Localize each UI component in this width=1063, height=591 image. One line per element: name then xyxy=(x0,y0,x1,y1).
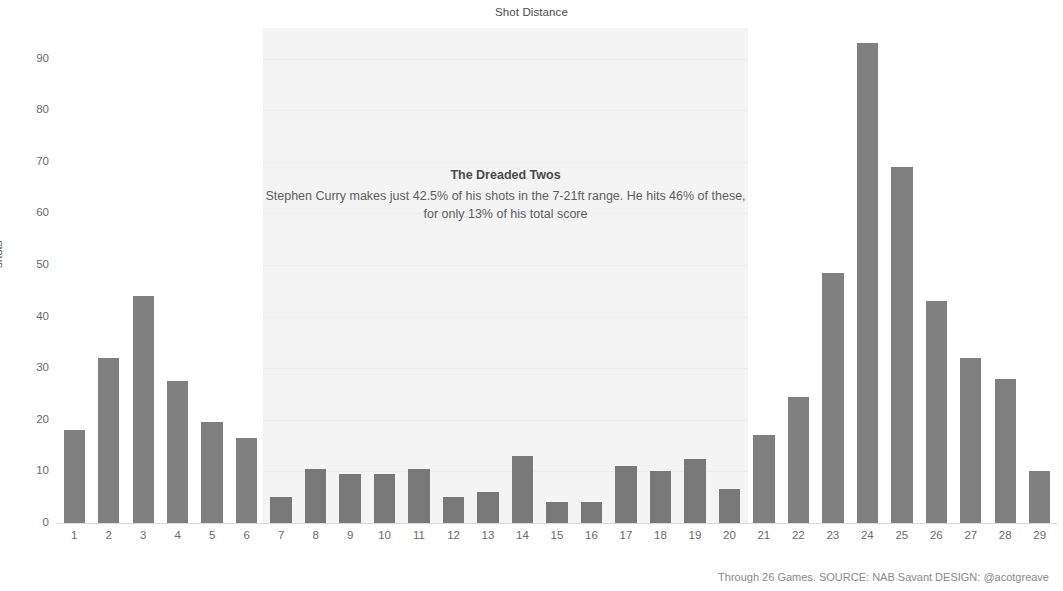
bar-15[interactable] xyxy=(546,502,567,523)
bar-1[interactable] xyxy=(64,430,85,523)
bar-slot xyxy=(719,28,740,523)
bar-slot xyxy=(753,28,774,523)
bar-slot xyxy=(1029,28,1050,523)
bars-layer xyxy=(57,28,1057,523)
x-tick-15: 15 xyxy=(540,530,574,542)
bar-slot xyxy=(857,28,878,523)
bar-5[interactable] xyxy=(201,422,222,523)
bar-slot xyxy=(995,28,1016,523)
x-tick-19: 19 xyxy=(678,530,712,542)
bar-slot xyxy=(443,28,464,523)
bar-23[interactable] xyxy=(822,273,843,523)
bar-slot xyxy=(891,28,912,523)
bar-2[interactable] xyxy=(98,358,119,523)
bar-26[interactable] xyxy=(926,301,947,523)
bar-slot xyxy=(788,28,809,523)
y-axis-title: shots xyxy=(0,241,4,269)
bar-slot xyxy=(236,28,257,523)
bar-13[interactable] xyxy=(477,492,498,523)
annotation-body: Stephen Curry makes just 42.5% of his sh… xyxy=(263,187,748,223)
y-tick-70: 70 xyxy=(9,156,49,168)
x-tick-25: 25 xyxy=(885,530,919,542)
bar-10[interactable] xyxy=(374,474,395,523)
x-tick-29: 29 xyxy=(1023,530,1057,542)
bar-24[interactable] xyxy=(857,43,878,523)
x-tick-28: 28 xyxy=(988,530,1022,542)
bar-14[interactable] xyxy=(512,456,533,523)
annotation-dreaded-twos: The Dreaded Twos Stephen Curry makes jus… xyxy=(263,168,748,223)
y-tick-90: 90 xyxy=(9,53,49,65)
x-tick-5: 5 xyxy=(195,530,229,542)
bar-17[interactable] xyxy=(615,466,636,523)
x-tick-6: 6 xyxy=(229,530,263,542)
shot-distance-chart: Shot Distance 0102030405060708090 shots … xyxy=(0,0,1063,591)
bar-slot xyxy=(960,28,981,523)
axis-baseline xyxy=(57,523,1057,524)
bar-3[interactable] xyxy=(133,296,154,523)
x-tick-3: 3 xyxy=(126,530,160,542)
x-tick-21: 21 xyxy=(747,530,781,542)
x-tick-2: 2 xyxy=(91,530,125,542)
chart-title: Shot Distance xyxy=(0,6,1063,18)
bar-slot xyxy=(512,28,533,523)
bar-16[interactable] xyxy=(581,502,602,523)
bar-slot xyxy=(201,28,222,523)
bar-9[interactable] xyxy=(339,474,360,523)
bar-slot xyxy=(684,28,705,523)
footer-note: Through 26 Games. SOURCE: NAB Savant DES… xyxy=(718,571,1049,583)
bar-slot xyxy=(64,28,85,523)
y-tick-40: 40 xyxy=(9,311,49,323)
bar-21[interactable] xyxy=(753,435,774,523)
y-tick-50: 50 xyxy=(9,259,49,271)
bar-slot xyxy=(581,28,602,523)
x-tick-26: 26 xyxy=(919,530,953,542)
bar-slot xyxy=(822,28,843,523)
x-tick-24: 24 xyxy=(850,530,884,542)
y-tick-0: 0 xyxy=(9,517,49,529)
x-tick-9: 9 xyxy=(333,530,367,542)
x-tick-23: 23 xyxy=(816,530,850,542)
bar-slot xyxy=(650,28,671,523)
y-tick-30: 30 xyxy=(9,362,49,374)
x-tick-20: 20 xyxy=(712,530,746,542)
x-tick-12: 12 xyxy=(436,530,470,542)
bar-7[interactable] xyxy=(270,497,291,523)
bar-12[interactable] xyxy=(443,497,464,523)
bar-25[interactable] xyxy=(891,167,912,523)
x-tick-22: 22 xyxy=(781,530,815,542)
y-tick-60: 60 xyxy=(9,207,49,219)
bar-slot xyxy=(98,28,119,523)
bar-slot xyxy=(926,28,947,523)
bar-slot xyxy=(133,28,154,523)
x-tick-16: 16 xyxy=(574,530,608,542)
bar-slot xyxy=(546,28,567,523)
bar-29[interactable] xyxy=(1029,471,1050,523)
bar-4[interactable] xyxy=(167,381,188,523)
bar-28[interactable] xyxy=(995,379,1016,524)
bar-8[interactable] xyxy=(305,469,326,523)
plot-area xyxy=(57,28,1057,523)
x-tick-10: 10 xyxy=(367,530,401,542)
bar-slot xyxy=(305,28,326,523)
y-tick-20: 20 xyxy=(9,414,49,426)
bar-slot xyxy=(339,28,360,523)
bar-11[interactable] xyxy=(408,469,429,523)
x-tick-18: 18 xyxy=(643,530,677,542)
x-tick-7: 7 xyxy=(264,530,298,542)
bar-22[interactable] xyxy=(788,397,809,523)
x-tick-8: 8 xyxy=(298,530,332,542)
bar-6[interactable] xyxy=(236,438,257,523)
bar-slot xyxy=(477,28,498,523)
bar-slot xyxy=(408,28,429,523)
bar-slot xyxy=(615,28,636,523)
y-tick-80: 80 xyxy=(9,104,49,116)
bar-20[interactable] xyxy=(719,489,740,523)
bar-19[interactable] xyxy=(684,459,705,524)
bar-slot xyxy=(270,28,291,523)
x-tick-27: 27 xyxy=(954,530,988,542)
annotation-title: The Dreaded Twos xyxy=(263,168,748,182)
bar-18[interactable] xyxy=(650,471,671,523)
x-tick-14: 14 xyxy=(505,530,539,542)
x-tick-11: 11 xyxy=(402,530,436,542)
bar-27[interactable] xyxy=(960,358,981,523)
